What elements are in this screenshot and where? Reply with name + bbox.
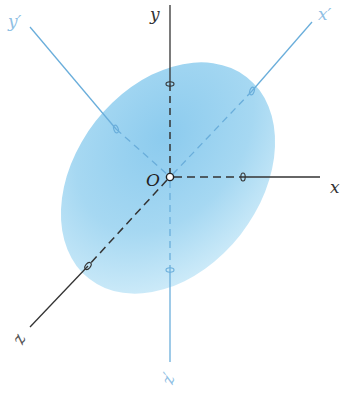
y-axis-label: y [149, 4, 160, 24]
origin-point [166, 173, 173, 180]
z-axis-label: z [7, 330, 30, 347]
x-prime-axis-label: x′ [318, 4, 332, 24]
z-prime-axis-label: z′ [158, 370, 179, 387]
y-prime-axis-label: y′ [7, 11, 22, 31]
x-axis-label: x [330, 177, 340, 197]
origin-label: O [146, 170, 160, 190]
ellipsoid-axes-diagram: O y x z y′ x′ z′ [0, 0, 352, 407]
